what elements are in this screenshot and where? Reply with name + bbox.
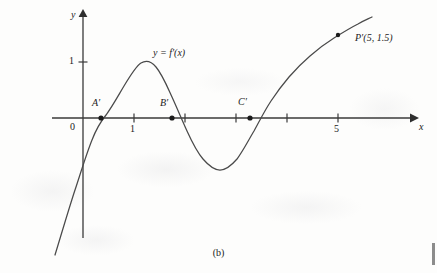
point-marker-B bbox=[169, 115, 174, 120]
point-label-C: C′ bbox=[238, 97, 247, 107]
point-marker-P bbox=[336, 33, 340, 37]
x-tick-label-5: 5 bbox=[334, 124, 339, 134]
y-tick-label-1: 1 bbox=[69, 56, 74, 66]
origin-label: 0 bbox=[70, 122, 75, 132]
curve-equation-label: y = f'(x) bbox=[153, 48, 185, 58]
figure-panel-b: y x 0 1 1 5 y = f'(x) A′ B′ C′ P′(5, 1.5… bbox=[0, 0, 437, 273]
derivative-curve bbox=[55, 17, 372, 255]
x-tick-label-1: 1 bbox=[130, 124, 135, 134]
page-edge-artifact bbox=[432, 243, 435, 265]
point-label-B: B′ bbox=[160, 98, 168, 108]
x-axis-arrow-icon bbox=[410, 114, 419, 123]
y-axis-label: y bbox=[71, 10, 75, 20]
y-axis-arrow-icon bbox=[79, 9, 88, 17]
point-label-A: A′ bbox=[92, 98, 100, 108]
point-marker-C bbox=[247, 115, 252, 120]
figure-caption: (b) bbox=[0, 248, 437, 258]
point-marker-A bbox=[98, 115, 103, 120]
point-label-P: P′(5, 1.5) bbox=[355, 33, 392, 43]
x-axis-label: x bbox=[419, 122, 423, 132]
